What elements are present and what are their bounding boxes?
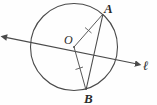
chord-ab-segment: [86, 14, 103, 90]
point-b-label: B: [84, 92, 93, 105]
line-label: ℓ: [143, 59, 149, 72]
center-point-marker: [73, 46, 75, 48]
center-label: O: [64, 34, 73, 46]
diagram-canvas: A B O ℓ: [0, 0, 157, 105]
point-a-label: A: [104, 2, 113, 15]
geometry-figure: [0, 0, 157, 105]
